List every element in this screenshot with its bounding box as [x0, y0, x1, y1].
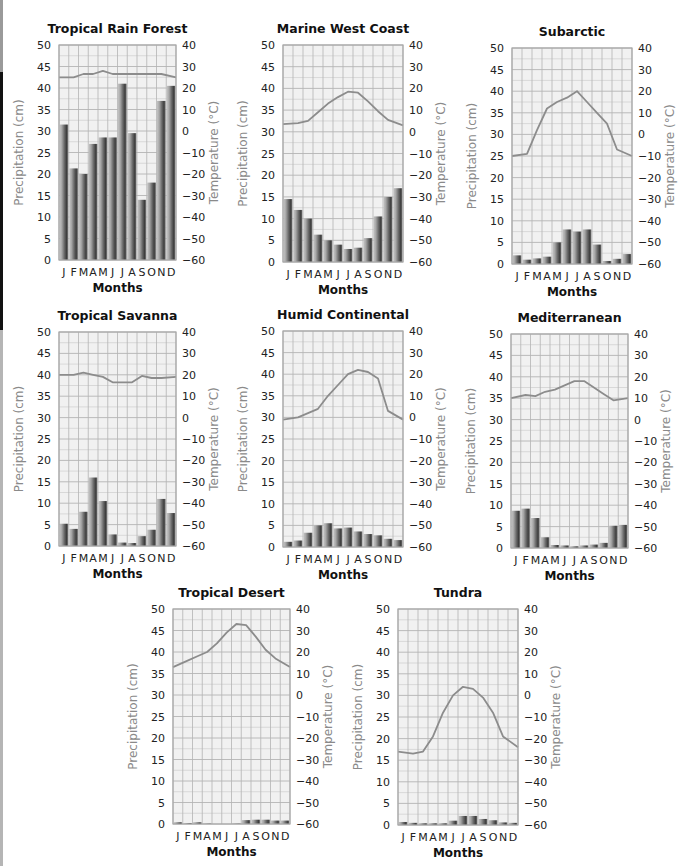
page-edge-strip	[0, 72, 3, 330]
month-label: S	[480, 831, 487, 844]
precip-tick-label: 0	[44, 254, 51, 267]
y-axis-title: Precipitation (cm)	[236, 386, 250, 492]
temp-tick-label: 10	[524, 668, 538, 681]
precipitation-bar	[324, 523, 333, 547]
climate-chart-marine-west-coast: Marine West Coast05101520253035404550−60…	[231, 15, 453, 310]
temp-tick-label: 20	[182, 369, 196, 382]
temp-tick-label: −50	[296, 797, 319, 810]
precipitation-bar	[99, 501, 108, 546]
precip-tick-label: 20	[151, 732, 165, 745]
precipitation-bar	[512, 511, 521, 548]
month-label: F	[295, 268, 301, 281]
month-label: O	[599, 554, 608, 567]
precipitation-bar	[533, 258, 542, 264]
precipitation-bar	[79, 512, 88, 546]
month-label: A	[314, 268, 322, 281]
precip-tick-label: 35	[489, 392, 503, 405]
chart-title: Tropical Desert	[178, 585, 285, 600]
month-label: F	[70, 266, 76, 279]
temp-tick-label: −30	[638, 193, 661, 206]
precip-tick-label: 50	[37, 39, 51, 52]
temp-tick-label: 10	[638, 107, 652, 120]
month-label: S	[252, 830, 259, 843]
precipitation-bar	[157, 101, 166, 260]
y2-axis-title: Temperature (°C)	[207, 387, 221, 492]
month-label: J	[345, 268, 349, 281]
month-label: J	[564, 270, 568, 283]
y2-axis-title: Temperature (°C)	[207, 101, 221, 206]
precip-tick-label: 10	[490, 215, 504, 228]
temp-tick-label: 40	[182, 326, 196, 339]
precip-tick-label: 15	[489, 478, 503, 491]
month-label: D	[281, 830, 289, 843]
precipitation-bar	[374, 535, 383, 547]
month-label: A	[469, 831, 477, 844]
month-label: J	[514, 270, 518, 283]
precipitation-bar	[314, 525, 323, 547]
month-label: A	[543, 270, 551, 283]
precip-tick-label: 10	[37, 497, 51, 510]
month-label: A	[128, 266, 136, 279]
precip-tick-label: 0	[158, 818, 165, 831]
precip-tick-label: 50	[37, 326, 51, 339]
precipitation-bar	[69, 168, 78, 260]
precipitation-bar	[384, 197, 393, 262]
month-label: S	[365, 553, 372, 566]
month-label: M	[79, 266, 89, 279]
temp-tick-label: 40	[409, 325, 423, 338]
month-label: J	[285, 553, 289, 566]
temp-tick-label: −20	[182, 454, 205, 467]
month-label: M	[303, 553, 313, 566]
precipitation-bar	[138, 200, 147, 260]
temp-tick-label: 30	[634, 349, 648, 362]
precip-tick-label: 20	[37, 168, 51, 181]
temp-tick-label: −20	[182, 168, 205, 181]
precipitation-bar	[294, 541, 303, 547]
temp-tick-label: 0	[296, 689, 303, 702]
precip-tick-label: 35	[37, 390, 51, 403]
precipitation-bar	[147, 183, 156, 260]
precipitation-bar	[294, 210, 303, 262]
precip-tick-label: 15	[37, 476, 51, 489]
precip-tick-label: 0	[497, 258, 504, 271]
grid	[398, 609, 518, 825]
temp-tick-label: −60	[296, 818, 319, 831]
month-label: J	[562, 554, 566, 567]
temp-tick-label: 20	[296, 646, 310, 659]
y2-axis-title: Temperature (°C)	[434, 387, 448, 492]
precipitation-bar	[128, 133, 137, 260]
precipitation-bar	[384, 539, 393, 547]
precip-tick-label: 45	[261, 61, 275, 74]
month-label: F	[70, 552, 76, 565]
month-label: A	[242, 830, 250, 843]
chart-title: Subarctic	[539, 24, 606, 39]
temp-tick-label: 0	[634, 414, 641, 427]
climate-chart-tundra: Tundra05101520253035404550−60−50−40−30−2…	[346, 579, 568, 866]
chart-title: Marine West Coast	[277, 21, 409, 36]
precip-tick-label: 25	[490, 150, 504, 163]
precip-tick-label: 5	[496, 521, 503, 534]
month-label: S	[594, 270, 601, 283]
y2-axis-title: Temperature (°C)	[659, 389, 673, 494]
precipitation-bar	[138, 536, 147, 546]
temp-tick-label: 20	[409, 82, 423, 95]
y-axis-title: Precipitation (cm)	[126, 663, 140, 769]
y-axis-title: Precipitation (cm)	[464, 388, 478, 494]
temp-tick-label: 40	[524, 603, 538, 616]
temp-tick-label: −60	[409, 256, 432, 269]
y-axis-title: Precipitation (cm)	[465, 103, 479, 209]
precipitation-bar	[60, 125, 69, 260]
precipitation-bar	[334, 245, 343, 262]
month-label: D	[167, 266, 175, 279]
temp-tick-label: −40	[409, 213, 432, 226]
x-axis-title: Months	[318, 283, 368, 297]
precip-tick-label: 20	[37, 454, 51, 467]
precipitation-bar	[394, 540, 403, 547]
precip-tick-label: 10	[376, 776, 390, 789]
month-label: N	[384, 268, 392, 281]
temp-tick-label: 0	[409, 411, 416, 424]
month-label: M	[79, 552, 89, 565]
precip-tick-label: 25	[37, 433, 51, 446]
month-label: M	[323, 268, 333, 281]
climate-chart-mediterranean: Mediterranean05101520253035404550−60−50−…	[459, 304, 678, 596]
